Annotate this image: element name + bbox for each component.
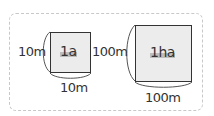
large-square-side-left: 100m [92, 44, 127, 59]
large-square-side-bottom: 100m [145, 90, 180, 105]
large-square-area-label: 1ha [150, 44, 175, 60]
small-square-area-label: 1a [60, 43, 77, 59]
small-square-side-left: 10m [18, 44, 46, 59]
small-square-side-bottom: 10m [60, 80, 88, 95]
